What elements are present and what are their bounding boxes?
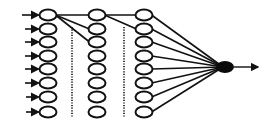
neuron-node [89,24,106,35]
neuron-node [40,10,57,21]
neuron-node [89,92,106,103]
neuron-nodes [40,10,153,118]
neuron-node [89,78,106,89]
neuron-node [40,37,57,48]
neuron-node [136,10,153,21]
neuron-node [40,51,57,62]
neuron-node [89,64,106,75]
neuron-node [136,107,153,118]
neuron-node [89,37,106,48]
connection-line [152,67,224,112]
output-node [216,61,234,73]
neuron-node [89,107,106,118]
neuron-node [40,24,57,35]
neuron-node [136,51,153,62]
neuron-node [136,37,153,48]
neuron-node [40,78,57,89]
input-arrows [22,15,39,112]
connection-line [152,42,224,67]
connection-line [152,67,224,97]
neuron-node [40,64,57,75]
connection-line [152,15,224,67]
neuron-node [40,107,57,118]
neuron-node [89,10,106,21]
neuron-node [136,64,153,75]
neuron-node [136,92,153,103]
neuron-node [136,78,153,89]
output-node-group [216,61,258,73]
connection-line [56,15,90,29]
neuron-node [40,92,57,103]
neural-network-diagram [0,0,275,128]
connection-line [105,15,137,29]
neuron-node [89,51,106,62]
neuron-node [136,24,153,35]
